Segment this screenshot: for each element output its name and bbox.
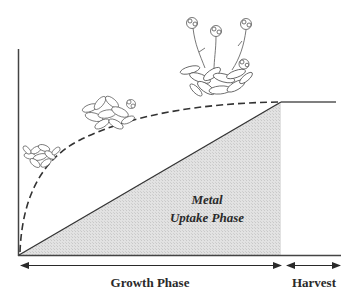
harvest-label: Harvest (292, 275, 337, 290)
flowering-plant-icon (179, 18, 254, 98)
metal-label: Metal (190, 192, 222, 207)
phytoextraction-diagram: Metal Uptake Phase Growth Phase Harvest (0, 0, 356, 303)
uptake-phase-label: Uptake Phase (170, 210, 244, 225)
growth-phase-label: Growth Phase (111, 275, 190, 290)
rosette-plant-icon (81, 94, 135, 131)
seedling-plant-icon (22, 143, 62, 169)
